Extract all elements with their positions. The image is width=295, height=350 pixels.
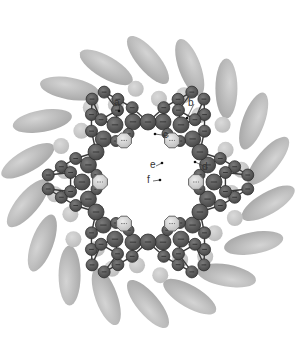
light-sphere (128, 81, 144, 97)
light-sphere (65, 231, 81, 247)
light-sphere (152, 267, 168, 283)
light-sphere (215, 117, 231, 133)
label-point-b (186, 117, 189, 120)
label-f: f (147, 174, 150, 185)
ring-structure-svg: abcdef (0, 0, 295, 350)
outer-ellipse (222, 227, 285, 259)
label-a: a (114, 97, 120, 108)
label-c: c (163, 129, 168, 140)
label-point-c (154, 133, 157, 136)
outer-ellipse (11, 105, 74, 137)
label-d: d (202, 161, 208, 172)
outer-ellipse (215, 59, 237, 119)
outer-ellipse (59, 245, 81, 305)
label-point-d (194, 161, 197, 164)
light-sphere (53, 138, 69, 154)
outer-ellipse (22, 211, 63, 275)
label-e: e (150, 159, 156, 170)
label-point-e (161, 162, 164, 165)
label-point-a (118, 110, 121, 113)
label-point-f (159, 179, 162, 182)
label-b: b (188, 97, 194, 108)
outer-ellipse (233, 89, 274, 153)
molecular-ring-figure: abcdef (0, 0, 295, 350)
light-sphere (227, 210, 243, 226)
